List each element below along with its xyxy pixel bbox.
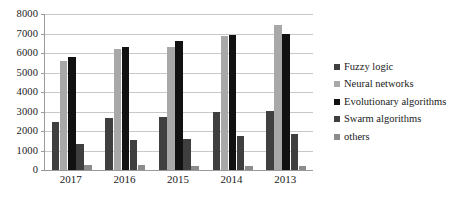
x-axis-labels: 20172016201520142013	[44, 174, 312, 194]
y-axis-tick	[41, 131, 45, 132]
legend-swatch-icon	[334, 64, 340, 70]
plot-wrapper: 800070006000500040003000200010000 201720…	[0, 0, 330, 202]
bar-group	[52, 14, 92, 170]
bar	[266, 111, 274, 170]
bar	[237, 136, 245, 170]
legend-item[interactable]: others	[334, 128, 466, 146]
legend-item-label: Evolutionary algorithms	[344, 97, 446, 108]
x-axis-tick-label: 2016	[113, 174, 135, 185]
bar	[105, 118, 113, 170]
y-axis-tick-label: 6000	[17, 48, 38, 59]
legend-item[interactable]: Neural networks	[334, 76, 466, 94]
bar	[175, 41, 183, 170]
bar	[68, 57, 76, 170]
legend-swatch-icon	[334, 134, 340, 140]
y-axis-tick	[41, 53, 45, 54]
bar-group	[105, 14, 145, 170]
legend-item-label: others	[344, 132, 370, 143]
y-axis-tick-label: 3000	[17, 106, 38, 117]
y-axis-tick	[41, 34, 45, 35]
legend-swatch-icon	[334, 81, 340, 87]
y-axis-tick	[41, 73, 45, 74]
bar	[282, 34, 290, 171]
y-axis-tick-label: 4000	[17, 87, 38, 98]
y-axis-tick-label: 7000	[17, 28, 38, 39]
legend-item[interactable]: Swarm algorithms	[334, 111, 466, 129]
bar	[130, 140, 138, 170]
bar	[114, 49, 122, 170]
legend-item-label: Neural networks	[344, 79, 414, 90]
bar	[52, 122, 60, 170]
y-axis-tick	[41, 151, 45, 152]
bar	[213, 112, 221, 170]
y-axis-tick-label: 5000	[17, 67, 38, 78]
bar	[159, 117, 167, 170]
x-axis-tick-label: 2017	[60, 174, 82, 185]
bar	[191, 166, 199, 170]
bar	[221, 36, 229, 170]
legend-item[interactable]: Fuzzy logic	[334, 58, 466, 76]
y-axis-tick	[41, 112, 45, 113]
bar	[245, 166, 253, 170]
y-axis-tick	[41, 170, 45, 171]
x-axis-tick-label: 2015	[167, 174, 189, 185]
bar	[60, 61, 68, 170]
bar	[299, 166, 307, 170]
y-axis-labels: 800070006000500040003000200010000	[0, 14, 38, 170]
bar-chart: 800070006000500040003000200010000 201720…	[0, 0, 466, 202]
bar	[229, 35, 237, 170]
x-axis-tick-label: 2014	[221, 174, 243, 185]
y-axis-tick	[41, 14, 45, 15]
bar	[122, 47, 130, 170]
legend-item-label: Fuzzy logic	[344, 62, 393, 73]
y-axis-tick-label: 8000	[17, 9, 38, 20]
bar	[167, 47, 175, 170]
legend-swatch-icon	[334, 116, 340, 122]
plot-area	[44, 14, 313, 171]
legend-swatch-icon	[334, 99, 340, 105]
y-axis-tick-label: 2000	[17, 126, 38, 137]
bar	[76, 144, 84, 170]
y-axis-tick-label: 1000	[17, 145, 38, 156]
bar	[274, 25, 282, 170]
chart-legend: Fuzzy logicNeural networksEvolutionary a…	[334, 58, 466, 146]
bar	[84, 165, 92, 170]
bar-group	[159, 14, 199, 170]
bar	[138, 165, 146, 170]
x-axis-tick-label: 2013	[274, 174, 296, 185]
bar-group	[213, 14, 253, 170]
bar	[291, 134, 299, 170]
legend-item[interactable]: Evolutionary algorithms	[334, 93, 466, 111]
y-axis-tick-label: 0	[33, 165, 38, 176]
y-axis-tick	[41, 92, 45, 93]
bar-group	[266, 14, 306, 170]
bar	[183, 139, 191, 170]
legend-item-label: Swarm algorithms	[344, 114, 421, 125]
